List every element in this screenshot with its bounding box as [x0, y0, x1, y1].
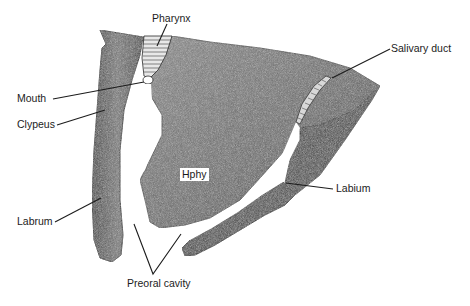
leader-salivary-duct — [332, 49, 390, 78]
leader-preoral-cavity — [134, 224, 181, 274]
label-labium: Labium — [336, 183, 370, 194]
mouthparts-diagram: Pharynx Salivary duct Mouth Clypeus Hphy… — [0, 0, 470, 306]
label-preoral-cavity: Preoral cavity — [127, 278, 191, 289]
label-salivary-duct: Salivary duct — [391, 43, 451, 54]
label-mouth: Mouth — [17, 93, 46, 104]
label-clypeus: Clypeus — [17, 119, 55, 130]
label-hphy: Hphy — [180, 168, 209, 181]
label-labrum: Labrum — [17, 216, 53, 227]
label-pharynx: Pharynx — [152, 13, 191, 24]
mouth-opening — [143, 76, 153, 84]
